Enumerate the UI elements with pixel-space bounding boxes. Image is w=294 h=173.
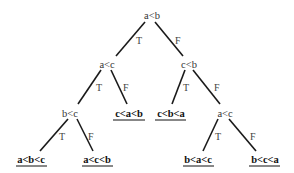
leaf-c-b-a: c<b<a	[157, 108, 185, 119]
leaf-a-c-b: a<c<b	[83, 154, 111, 165]
node-a-lt-c-2: a<c	[217, 108, 233, 119]
leaf-b-c-a: b<c<a	[251, 154, 279, 165]
leaf-c-a-b: c<a<b	[115, 108, 143, 119]
edge-label-ac2-bac: T	[215, 131, 221, 142]
edge-label-ac2-bca: F	[250, 131, 256, 142]
decision-tree: T F T F T F T F T F a<b a<c c<b b<c a<c …	[0, 0, 294, 173]
edge-label-ac-bc: T	[96, 82, 102, 93]
leaf-b-a-c: b<a<c	[184, 154, 212, 165]
edge-label-bc-abc: T	[59, 131, 65, 142]
leaf-nodes: c<a<b c<b<a a<b<c a<c<b b<a<c b<c<a	[16, 108, 280, 166]
edge-label-root-cb: F	[175, 35, 181, 46]
edge-label-bc-acb: F	[88, 131, 94, 142]
edge-label-ac-cab: F	[123, 82, 129, 93]
edge-label-root-ac: T	[136, 35, 142, 46]
edge-label-cb-cba: T	[183, 82, 189, 93]
decision-nodes: a<b a<c c<b b<c a<c	[62, 10, 233, 119]
node-root-a-lt-b: a<b	[144, 10, 160, 21]
node-c-lt-b: c<b	[181, 59, 197, 70]
leaf-a-b-c: a<b<c	[17, 154, 45, 165]
edge-label-cb-ac2: F	[214, 82, 220, 93]
edges	[40, 22, 256, 151]
node-b-lt-c: b<c	[62, 108, 78, 119]
node-a-lt-c: a<c	[99, 59, 115, 70]
